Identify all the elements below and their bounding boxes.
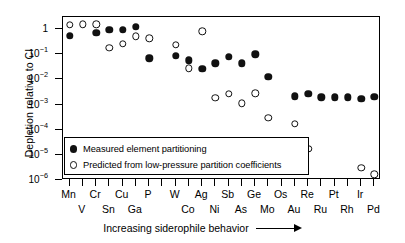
y-axis-tick: [55, 179, 62, 180]
x-axis-tick: [201, 179, 202, 186]
x-axis-tick: [69, 179, 70, 186]
x-axis-tick-label: Ni: [199, 203, 229, 215]
x-axis-tick: [334, 179, 335, 186]
x-axis-tick-label: Ag: [186, 188, 216, 200]
data-point-filled: [145, 55, 152, 62]
data-point-filled: [304, 90, 311, 97]
data-point-filled: [371, 93, 378, 100]
data-point-open: [251, 90, 258, 97]
x-axis-tick-label: Mo: [252, 203, 282, 215]
x-axis-tick: [320, 179, 321, 186]
x-axis-tick-label: Co: [173, 203, 203, 215]
data-point-open: [265, 114, 272, 121]
legend: Measured element partitioning Predicted …: [64, 137, 309, 175]
x-axis-tick: [188, 179, 189, 186]
y-axis-tick-label: 10−5: [8, 148, 48, 159]
x-axis-tick-label: Pd: [358, 203, 388, 215]
data-point-filled: [185, 56, 192, 63]
legend-label-measured: Measured element partitioning: [83, 144, 207, 154]
data-point-filled: [225, 53, 232, 60]
data-point-filled: [291, 93, 298, 100]
data-point-filled: [132, 23, 139, 30]
x-axis-tick: [360, 179, 361, 186]
x-axis-tick-label: Os: [266, 188, 296, 200]
x-axis-tick-label: Mn: [54, 188, 84, 200]
x-axis-tick: [82, 179, 83, 186]
x-axis-tick: [175, 179, 176, 186]
x-axis-tick: [161, 179, 162, 186]
y-axis-tick: [55, 28, 62, 29]
data-point-filled: [198, 65, 205, 72]
data-point-open: [132, 32, 139, 39]
x-axis-tick: [267, 179, 268, 186]
data-point-open: [225, 90, 232, 97]
x-axis-tick: [373, 179, 374, 186]
x-axis-tick-label: Ga: [120, 203, 150, 215]
data-point-open: [92, 21, 99, 28]
x-axis-tick-label: As: [226, 203, 256, 215]
data-point-open: [145, 35, 152, 42]
data-point-open: [291, 120, 298, 127]
x-axis-tick: [108, 179, 109, 186]
x-axis-tick-label: Ir: [345, 188, 375, 200]
x-axis-tick: [148, 179, 149, 186]
x-axis-tick: [254, 179, 255, 186]
data-point-filled: [251, 50, 258, 57]
filled-circle-icon: [70, 145, 83, 152]
y-axis-tick: [55, 129, 62, 130]
y-axis-tick: [55, 104, 62, 105]
data-point-open: [238, 100, 245, 107]
x-axis-tick: [95, 179, 96, 186]
x-axis-tick-label: Cr: [80, 188, 110, 200]
data-point-open: [66, 21, 73, 28]
data-point-filled: [344, 94, 351, 101]
x-axis-caption: Increasing siderophile behavior: [0, 222, 405, 234]
x-axis-caption-text: Increasing siderophile behavior: [103, 222, 248, 234]
x-axis-tick-label: Rh: [332, 203, 362, 215]
open-circle-icon: [70, 161, 83, 168]
x-axis-tick-label: Re: [292, 188, 322, 200]
x-axis-tick: [214, 179, 215, 186]
x-axis-tick-label: Cu: [107, 188, 137, 200]
x-axis-tick: [307, 179, 308, 186]
data-point-filled: [119, 26, 126, 33]
figure: Depletion relative to CI 110−110−210−310…: [0, 0, 405, 243]
data-point-filled: [331, 94, 338, 101]
data-point-filled: [265, 73, 272, 80]
data-point-open: [119, 40, 126, 47]
x-axis-tick-label: Ge: [239, 188, 269, 200]
data-point-open: [106, 44, 113, 51]
x-axis-tick: [241, 179, 242, 186]
data-point-filled: [318, 94, 325, 101]
x-axis-tick: [347, 179, 348, 186]
data-point-open: [172, 41, 179, 48]
x-axis-tick: [294, 179, 295, 186]
data-point-filled: [212, 60, 219, 67]
y-axis-tick-label: 10−3: [8, 98, 48, 109]
x-axis-tick: [122, 179, 123, 186]
x-axis-tick: [281, 179, 282, 186]
data-point-filled: [106, 26, 113, 33]
x-axis-tick-label: Ru: [305, 203, 335, 215]
y-axis-tick: [55, 78, 62, 79]
data-point-filled: [238, 59, 245, 66]
data-point-filled: [357, 95, 364, 102]
data-point-open: [198, 28, 205, 35]
x-axis-tick-label: Sb: [213, 188, 243, 200]
x-axis-tick-label: W: [160, 188, 190, 200]
data-point-filled: [66, 32, 73, 39]
data-point-filled: [92, 29, 99, 36]
data-point-open: [371, 170, 378, 177]
y-axis-tick-label: 10−6: [8, 174, 48, 185]
x-axis-tick-label: Au: [279, 203, 309, 215]
legend-label-predicted: Predicted from low-pressure partition co…: [83, 160, 281, 170]
y-axis-tick: [55, 154, 62, 155]
x-axis-tick: [135, 179, 136, 186]
legend-item-predicted: Predicted from low-pressure partition co…: [70, 157, 303, 173]
x-axis-tick-label: Sn: [93, 203, 123, 215]
x-axis-tick-label: Pt: [319, 188, 349, 200]
y-axis-tick: [55, 53, 62, 54]
y-axis: 110−110−210−310−410−510−6: [0, 16, 60, 179]
y-axis-tick-label: 1: [8, 23, 48, 34]
data-point-open: [185, 65, 192, 72]
